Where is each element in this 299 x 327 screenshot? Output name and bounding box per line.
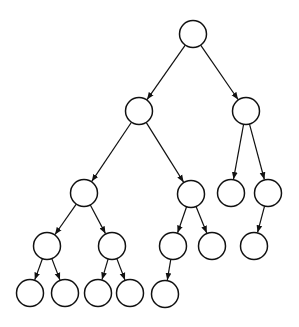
tree-node	[99, 233, 126, 260]
edge-arrow	[201, 45, 238, 99]
tree-node	[117, 280, 144, 307]
edges	[35, 45, 265, 280]
tree-node	[160, 233, 187, 260]
tree-node	[180, 21, 207, 48]
tree-node	[152, 281, 179, 308]
edge-arrow	[146, 122, 183, 182]
nodes	[17, 21, 282, 308]
tree-node	[178, 181, 205, 208]
edge-arrow	[117, 259, 125, 280]
edge-arrow	[102, 259, 108, 280]
edge-arrow	[92, 122, 132, 181]
tree-diagram	[0, 0, 299, 327]
tree-node	[17, 280, 44, 307]
tree-node	[255, 180, 282, 207]
tree-node	[241, 233, 268, 260]
tree-node	[126, 98, 153, 125]
edge-arrow	[55, 204, 76, 234]
edge-arrow	[178, 207, 187, 233]
edge-arrow	[90, 205, 105, 234]
tree-node	[52, 280, 79, 307]
tree-node	[85, 280, 112, 307]
edge-arrow	[35, 259, 43, 280]
tree-node	[233, 98, 260, 125]
edge-arrow	[147, 45, 185, 99]
edge-arrow	[52, 259, 60, 280]
tree-node	[71, 180, 98, 207]
edge-arrow	[249, 124, 264, 179]
tree-node	[34, 233, 61, 260]
edge-arrow	[258, 206, 265, 232]
tree-node	[218, 180, 245, 207]
edge-arrow	[196, 207, 207, 234]
edge-arrow	[167, 259, 170, 280]
tree-node	[199, 233, 226, 260]
edge-arrow	[234, 124, 244, 179]
